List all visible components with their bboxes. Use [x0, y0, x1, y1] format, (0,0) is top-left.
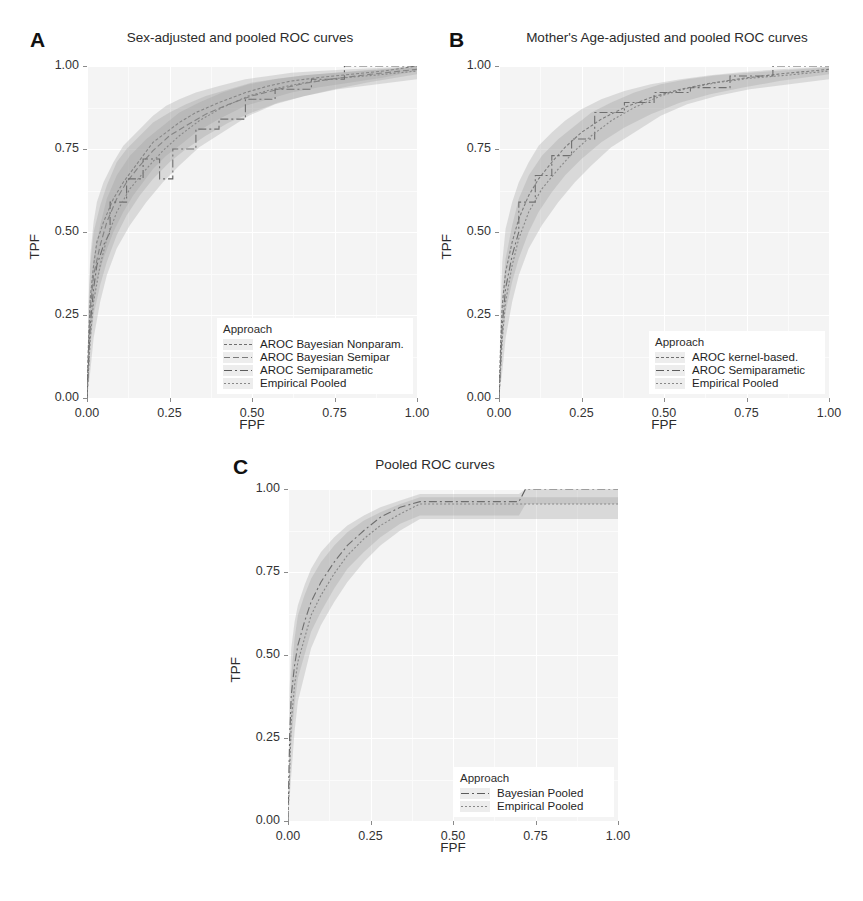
y-tick-label: 1.00: [35, 58, 79, 72]
y-tick-label: 0.25: [35, 307, 79, 321]
x-tick-label: 0.50: [222, 406, 282, 420]
y-tick-label: 0.00: [236, 813, 280, 827]
y-tick-label: 0.75: [35, 141, 79, 155]
x-tick-label: 0.50: [634, 406, 694, 420]
legend-swatch-icon: [223, 365, 253, 376]
legend-item-label: Empirical Pooled: [260, 377, 346, 390]
y-tick-label: 0.50: [447, 224, 491, 238]
legend-item[interactable]: AROC Semiparametic: [223, 364, 406, 377]
y-tick-label: 1.00: [236, 481, 280, 495]
legend-title: Approach: [223, 323, 406, 335]
y-tick-label: 0.50: [236, 647, 280, 661]
panel-a-title: Sex-adjusted and pooled ROC curves: [75, 30, 405, 45]
x-tick-label: 1.00: [799, 406, 859, 420]
x-tick-mark: [829, 398, 830, 402]
y-tick-mark: [83, 232, 87, 233]
y-tick-label: 0.25: [447, 307, 491, 321]
legend-item[interactable]: AROC Semiparametic: [655, 364, 818, 377]
x-tick-label: 0.25: [552, 406, 612, 420]
x-tick-mark: [170, 398, 171, 402]
legend-item[interactable]: Bayesian Pooled: [460, 787, 607, 800]
panel-c-title: Pooled ROC curves: [285, 457, 585, 472]
y-tick-label: 0.75: [447, 141, 491, 155]
legend-item[interactable]: AROC kernel-based.: [655, 351, 818, 364]
panel-b-letter: B: [449, 28, 465, 52]
x-tick-mark: [417, 398, 418, 402]
x-tick-label: 0.75: [717, 406, 777, 420]
x-tick-mark: [664, 398, 665, 402]
legend-swatch-icon: [223, 378, 253, 389]
legend-swatch-icon: [460, 801, 490, 812]
legend: ApproachAROC Bayesian Nonparam.AROC Baye…: [217, 318, 413, 394]
y-tick-mark: [284, 572, 288, 573]
x-tick-label: 0.00: [469, 406, 529, 420]
y-tick-mark: [495, 66, 499, 67]
y-tick-label: 0.75: [236, 564, 280, 578]
x-tick-label: 1.00: [588, 829, 648, 843]
y-tick-mark: [495, 232, 499, 233]
x-tick-mark: [453, 821, 454, 825]
y-tick-mark: [495, 149, 499, 150]
legend-item-label: Empirical Pooled: [497, 800, 583, 813]
y-tick-mark: [83, 315, 87, 316]
legend-item[interactable]: AROC Bayesian Semipar: [223, 351, 406, 364]
panel-b-title: Mother's Age-adjusted and pooled ROC cur…: [477, 30, 857, 45]
legend-item[interactable]: Empirical Pooled: [655, 377, 818, 390]
legend-swatch-icon: [223, 339, 253, 350]
x-tick-mark: [252, 398, 253, 402]
legend-item-label: Bayesian Pooled: [497, 787, 583, 800]
legend-item-label: AROC Bayesian Semipar: [260, 351, 390, 364]
x-tick-label: 1.00: [387, 406, 447, 420]
x-tick-mark: [288, 821, 289, 825]
y-tick-mark: [83, 149, 87, 150]
y-tick-label: 0.00: [35, 390, 79, 404]
y-tick-label: 0.50: [35, 224, 79, 238]
legend-item[interactable]: Empirical Pooled: [460, 800, 607, 813]
legend-item-label: AROC Bayesian Nonparam.: [260, 338, 404, 351]
x-tick-mark: [536, 821, 537, 825]
x-tick-label: 0.25: [341, 829, 401, 843]
legend-item[interactable]: AROC Bayesian Nonparam.: [223, 338, 406, 351]
legend-item-label: AROC Semiparametic: [260, 364, 373, 377]
y-tick-mark: [284, 738, 288, 739]
x-tick-mark: [582, 398, 583, 402]
y-tick-mark: [495, 315, 499, 316]
y-tick-label: 0.25: [236, 730, 280, 744]
y-tick-label: 0.00: [447, 390, 491, 404]
legend-item-label: AROC kernel-based.: [692, 351, 798, 364]
legend-title: Approach: [460, 772, 607, 784]
y-tick-mark: [284, 655, 288, 656]
x-tick-label: 0.00: [258, 829, 318, 843]
y-tick-label: 1.00: [447, 58, 491, 72]
x-tick-mark: [618, 821, 619, 825]
legend-item[interactable]: Empirical Pooled: [223, 377, 406, 390]
x-tick-mark: [371, 821, 372, 825]
x-tick-label: 0.75: [506, 829, 566, 843]
legend-title: Approach: [655, 336, 818, 348]
x-tick-mark: [335, 398, 336, 402]
y-tick-mark: [83, 66, 87, 67]
legend-swatch-icon: [460, 788, 490, 799]
panel-c-letter: C: [233, 455, 249, 479]
panel-a-letter: A: [30, 28, 46, 52]
x-tick-label: 0.25: [140, 406, 200, 420]
legend: ApproachAROC kernel-based.AROC Semiparam…: [649, 331, 825, 394]
x-tick-label: 0.75: [305, 406, 365, 420]
legend-item-label: AROC Semiparametic: [692, 364, 805, 377]
x-tick-mark: [499, 398, 500, 402]
x-tick-label: 0.50: [423, 829, 483, 843]
legend-swatch-icon: [655, 352, 685, 363]
x-tick-label: 0.00: [57, 406, 117, 420]
legend-swatch-icon: [655, 365, 685, 376]
x-tick-mark: [747, 398, 748, 402]
legend-swatch-icon: [223, 352, 253, 363]
x-tick-mark: [87, 398, 88, 402]
legend-item-label: Empirical Pooled: [692, 377, 778, 390]
legend-swatch-icon: [655, 378, 685, 389]
y-tick-mark: [284, 489, 288, 490]
legend: ApproachBayesian PooledEmpirical Pooled: [454, 767, 614, 817]
